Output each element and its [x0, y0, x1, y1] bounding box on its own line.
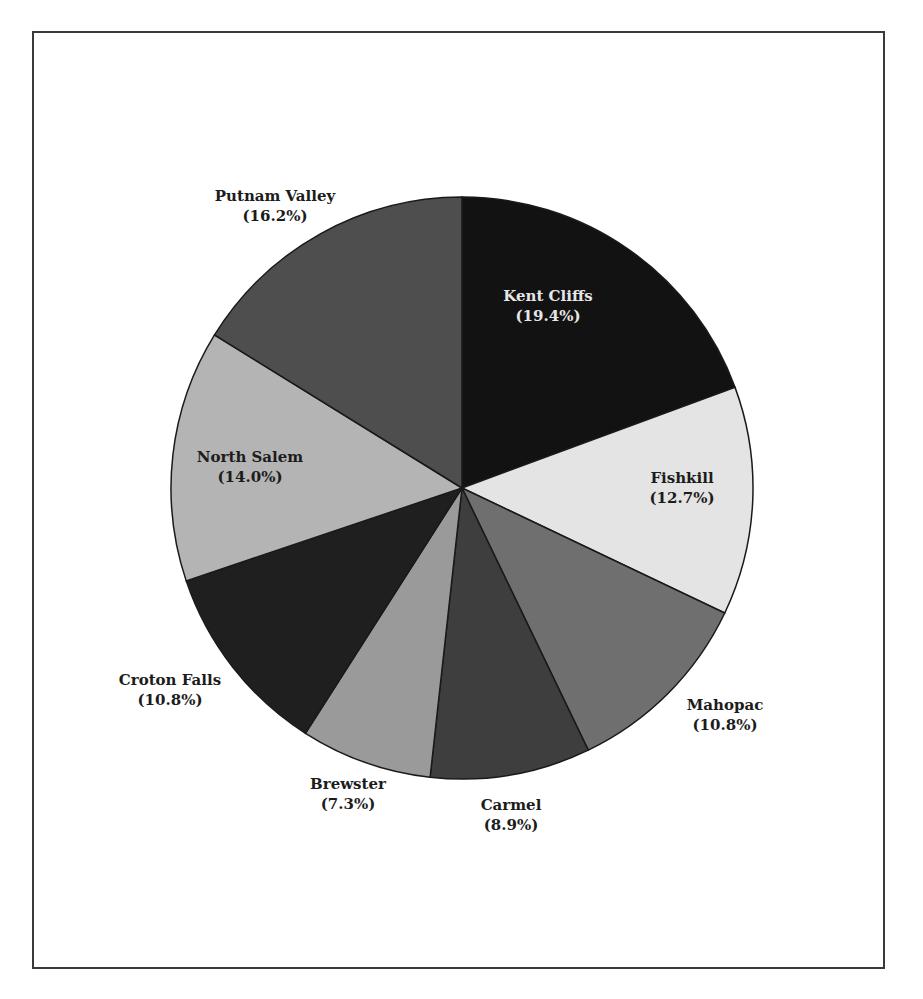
label-putnam-valley-pct: (16.2%)	[215, 206, 335, 226]
label-carmel-name: Carmel	[481, 796, 542, 814]
label-croton-falls: Croton Falls (10.8%)	[119, 670, 221, 710]
label-brewster-pct: (7.3%)	[310, 794, 386, 814]
label-brewster: Brewster (7.3%)	[310, 774, 386, 814]
pie-chart	[0, 0, 923, 999]
label-mahopac-pct: (10.8%)	[687, 715, 764, 735]
label-north-salem-name: North Salem	[197, 448, 303, 466]
label-carmel: Carmel (8.9%)	[481, 795, 542, 835]
label-north-salem: North Salem (14.0%)	[197, 447, 303, 487]
label-croton-falls-name: Croton Falls	[119, 671, 221, 689]
label-mahopac-name: Mahopac	[687, 696, 764, 714]
label-croton-falls-pct: (10.8%)	[119, 690, 221, 710]
label-kent-cliffs-pct: (19.4%)	[503, 306, 592, 326]
label-fishkill-pct: (12.7%)	[650, 488, 715, 508]
label-putnam-valley-name: Putnam Valley	[215, 187, 335, 205]
label-mahopac: Mahopac (10.8%)	[687, 695, 764, 735]
label-putnam-valley: Putnam Valley (16.2%)	[215, 186, 335, 226]
label-fishkill-name: Fishkill	[650, 469, 713, 487]
label-kent-cliffs-name: Kent Cliffs	[503, 287, 592, 305]
label-fishkill: Fishkill (12.7%)	[650, 468, 715, 508]
label-carmel-pct: (8.9%)	[481, 815, 542, 835]
label-brewster-name: Brewster	[310, 775, 386, 793]
label-north-salem-pct: (14.0%)	[197, 467, 303, 487]
label-kent-cliffs: Kent Cliffs (19.4%)	[503, 286, 592, 326]
